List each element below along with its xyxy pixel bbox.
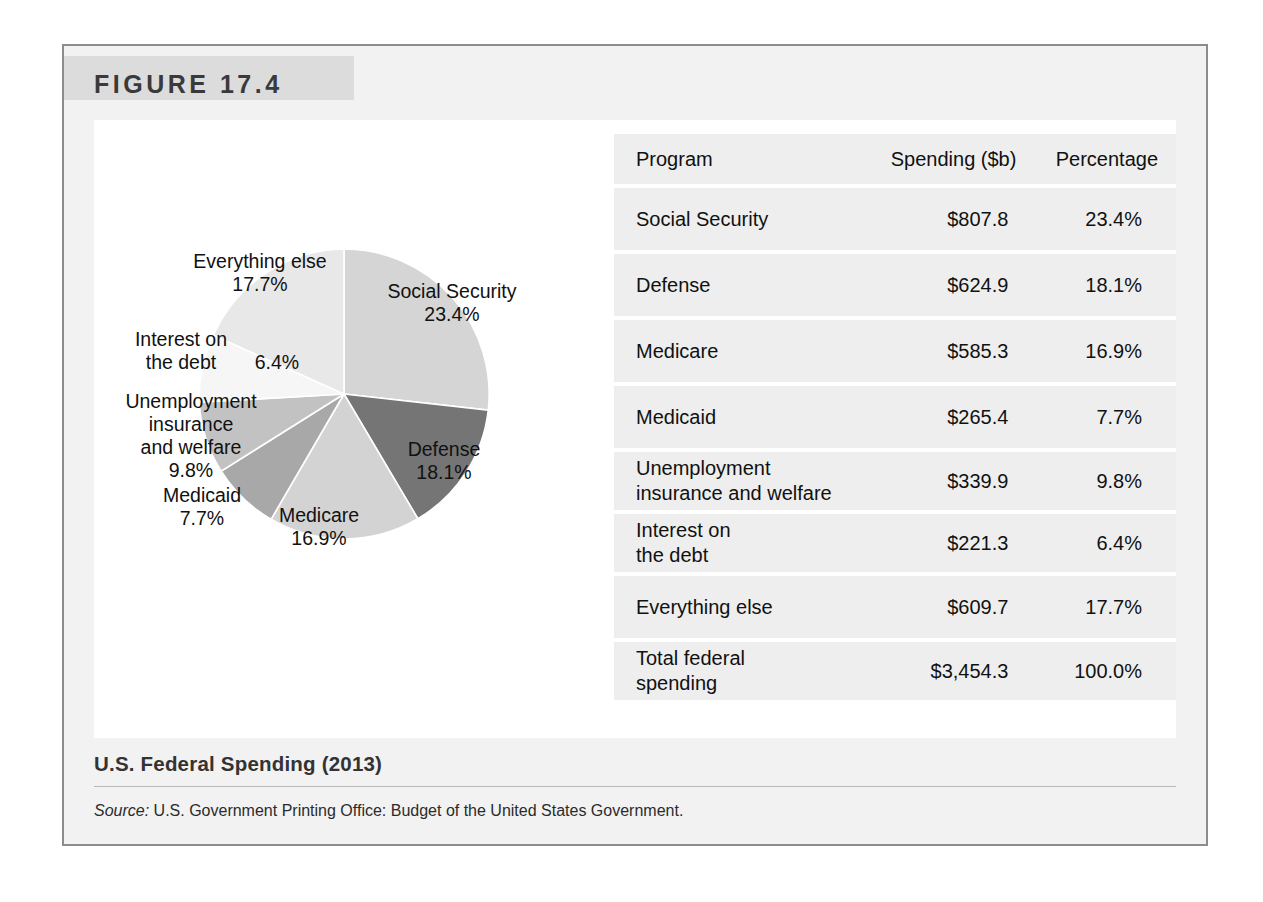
caption-divider — [94, 786, 1176, 787]
pie-label-unemployment-line3: and welfare — [91, 436, 291, 459]
pie-label-interest-line1: Interest on — [116, 328, 246, 351]
cell-spending: $609.7 — [882, 576, 1038, 638]
cell-spending: $807.8 — [882, 188, 1038, 250]
pie-label-unemployment-pct: 9.8% — [91, 459, 291, 482]
cell-spending: $221.3 — [882, 514, 1038, 572]
figure-caption-title: U.S. Federal Spending (2013) — [94, 752, 382, 776]
pie-chart: Social Security 23.4% Defense 18.1% Medi… — [94, 120, 614, 738]
pie-label-unemployment-line1: Unemployment — [91, 390, 291, 413]
pie-slice-social-security — [344, 249, 489, 410]
cell-spending: $3,454.3 — [882, 642, 1038, 700]
source-label: Source: — [94, 802, 149, 819]
cell-program: Defense — [636, 273, 882, 298]
cell-program: Interest on — [636, 518, 882, 543]
pie-label-medicare: Medicare 16.9% — [249, 504, 389, 550]
cell-spending: $585.3 — [882, 320, 1038, 382]
table-row: Unemployment insurance and welfare $339.… — [614, 452, 1176, 510]
cell-percentage: 17.7% — [1038, 576, 1176, 638]
cell-percentage: 23.4% — [1038, 188, 1176, 250]
cell-program: Everything else — [636, 595, 882, 620]
figure-number-label: FIGURE 17.4 — [94, 70, 283, 99]
pie-label-interest-line2: the debt — [116, 351, 246, 374]
cell-percentage: 100.0% — [1038, 642, 1176, 700]
figure-number-band: FIGURE 17.4 — [64, 56, 354, 100]
table-row: Defense $624.9 18.1% — [614, 254, 1176, 316]
pie-label-medicare-name: Medicare — [279, 504, 359, 526]
table-row: Medicare $585.3 16.9% — [614, 320, 1176, 382]
pie-label-medicare-pct: 16.9% — [249, 527, 389, 550]
cell-program: Total federal — [636, 646, 882, 671]
pie-label-everything-else-pct: 17.7% — [160, 273, 360, 296]
cell-percentage: 6.4% — [1038, 514, 1176, 572]
cell-spending: $339.9 — [882, 452, 1038, 510]
table-body: Social Security $807.8 23.4% Defense $62… — [614, 188, 1176, 700]
table-header: Program Spending ($b) Percentage — [614, 134, 1176, 184]
figure-frame: FIGURE 17.4 Social Sec — [62, 44, 1208, 846]
column-header-program: Program — [614, 134, 882, 184]
pie-label-medicaid-name: Medicaid — [163, 484, 241, 506]
table-row: Medicaid $265.4 7.7% — [614, 386, 1176, 448]
pie-label-unemployment-line2: insurance — [91, 413, 291, 436]
cell-program-line2: spending — [636, 671, 882, 696]
pie-label-interest-pct-wrap: 6.4% — [242, 351, 312, 374]
pie-label-social-security: Social Security 23.4% — [362, 280, 542, 326]
pie-label-defense: Defense 18.1% — [374, 438, 514, 484]
cell-percentage: 9.8% — [1038, 452, 1176, 510]
pie-label-social-security-pct: 23.4% — [362, 303, 542, 326]
pie-label-everything-else-name: Everything else — [193, 250, 326, 272]
column-header-percentage: Percentage — [1038, 134, 1176, 184]
cell-spending: $265.4 — [882, 386, 1038, 448]
cell-percentage: 7.7% — [1038, 386, 1176, 448]
cell-program: Social Security — [636, 207, 882, 232]
cell-percentage: 16.9% — [1038, 320, 1176, 382]
spending-table: Program Spending ($b) Percentage Social … — [614, 130, 1176, 704]
pie-label-unemployment: Unemployment insurance and welfare 9.8% — [91, 390, 291, 482]
figure-content-panel: Social Security 23.4% Defense 18.1% Medi… — [94, 120, 1176, 738]
column-header-spending: Spending ($b) — [882, 134, 1038, 184]
cell-program: Unemployment — [636, 456, 882, 481]
cell-percentage: 18.1% — [1038, 254, 1176, 316]
table-row-total: Total federal spending $3,454.3 100.0% — [614, 642, 1176, 700]
cell-program: Medicaid — [636, 405, 882, 430]
pie-label-defense-pct: 18.1% — [374, 461, 514, 484]
table-row: Everything else $609.7 17.7% — [614, 576, 1176, 638]
pie-label-everything-else: Everything else 17.7% — [160, 250, 360, 296]
table-row: Interest on the debt $221.3 6.4% — [614, 514, 1176, 572]
pie-label-medicaid-pct: 7.7% — [137, 507, 267, 530]
figure-source-note: Source: U.S. Government Printing Office:… — [94, 802, 683, 820]
cell-spending: $624.9 — [882, 254, 1038, 316]
cell-program: Medicare — [636, 339, 882, 364]
cell-program-line2: the debt — [636, 543, 882, 568]
pie-label-medicaid: Medicaid 7.7% — [137, 484, 267, 530]
pie-label-interest: Interest on the debt — [116, 328, 246, 374]
pie-label-social-security-name: Social Security — [388, 280, 517, 302]
table-row: Social Security $807.8 23.4% — [614, 188, 1176, 250]
pie-label-interest-pct: 6.4% — [255, 351, 299, 373]
cell-program-line2: insurance and welfare — [636, 481, 882, 506]
table-header-row: Program Spending ($b) Percentage — [614, 134, 1176, 184]
pie-label-defense-name: Defense — [408, 438, 481, 460]
source-text: U.S. Government Printing Office: Budget … — [149, 802, 683, 819]
